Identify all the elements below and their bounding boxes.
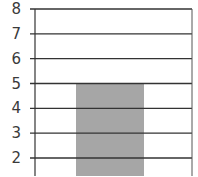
bar-0 [76, 84, 144, 177]
y-tick-label-6: 6 [11, 50, 21, 68]
bar-chart: 2345678 [0, 0, 198, 176]
bars [76, 84, 144, 177]
y-tick-label-2: 2 [11, 149, 21, 167]
y-tick-label-3: 3 [11, 124, 21, 142]
y-tick-label-4: 4 [11, 99, 21, 117]
y-tick-labels: 2345678 [11, 0, 21, 167]
y-tick-label-7: 7 [11, 25, 21, 43]
y-tick-label-5: 5 [11, 75, 21, 93]
y-tick-label-8: 8 [11, 0, 21, 18]
